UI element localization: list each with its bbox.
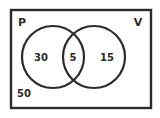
intersection-count: 5: [70, 52, 77, 63]
venn-diagram-svg: P V 30 5 15 50: [0, 0, 160, 118]
outside-count: 50: [17, 88, 31, 99]
set-p-label: P: [18, 16, 26, 29]
set-v-label: V: [134, 16, 143, 29]
set-p-only-count: 30: [34, 52, 48, 63]
set-v-only-count: 15: [100, 52, 114, 63]
venn-diagram-figure: P V 30 5 15 50: [0, 0, 160, 118]
universal-set-rectangle: [11, 10, 151, 108]
